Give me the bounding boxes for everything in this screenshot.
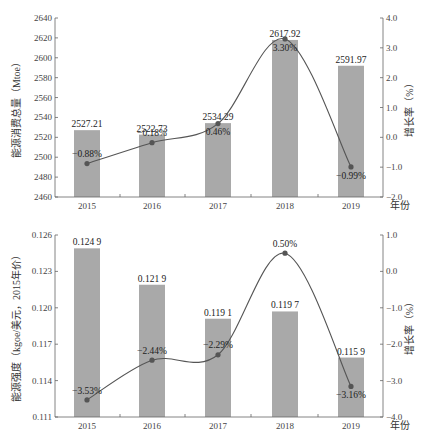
- x-tick-label: 2018: [276, 421, 295, 431]
- y2-tick-label: 1.0: [386, 230, 398, 240]
- y-tick-label: 2540: [34, 112, 53, 122]
- growth-rate-label: −0.88%: [72, 149, 102, 159]
- y-tick-label: 2480: [34, 172, 53, 182]
- energy-consumption-chart: 2527.212522.732534.292617.922591.9724602…: [10, 13, 415, 211]
- growth-rate-label: −2.29%: [203, 340, 233, 350]
- bar-value-label: 2591.97: [336, 55, 367, 65]
- bar-value-label: 2527.21: [72, 119, 103, 129]
- y2-axis-title: 增长率（%）: [403, 297, 415, 355]
- y-tick-label: 2520: [34, 132, 53, 142]
- growth-point: [348, 164, 353, 169]
- x-tick-label: 2018: [276, 201, 295, 211]
- y-tick-label: 2600: [34, 53, 53, 63]
- y-tick-label: 0.120: [32, 303, 53, 313]
- x-tick-label: 2015: [78, 421, 97, 431]
- y-tick-label: 0.117: [32, 339, 52, 349]
- y2-axis-title: 增长率（%）: [403, 78, 415, 136]
- growth-rate-label: 0.46%: [206, 127, 231, 137]
- y-tick-label: 0.126: [32, 230, 53, 240]
- bar-2018: [272, 40, 298, 197]
- x-tick-label: 2015: [78, 201, 97, 211]
- y2-tick-label: −3.0: [386, 376, 403, 386]
- y-tick-label: 2580: [34, 73, 53, 83]
- growth-rate-label: −2.44%: [137, 346, 167, 356]
- growth-rate-label: −0.99%: [336, 171, 366, 181]
- y2-tick-label: 1.0: [386, 103, 398, 113]
- growth-point: [149, 140, 154, 145]
- bar-value-label: 0.115 9: [337, 347, 365, 357]
- x-axis-title: 年份: [390, 199, 410, 211]
- energy-charts: 2527.212522.732534.292617.922591.9724602…: [0, 0, 434, 447]
- x-tick-label: 2016: [143, 421, 162, 431]
- growth-point: [84, 397, 89, 402]
- x-tick-label: 2019: [342, 421, 361, 431]
- y2-tick-label: 2.0: [386, 73, 398, 83]
- y2-tick-label: 0.0: [386, 266, 398, 276]
- bar-value-label: 0.119 7: [271, 300, 299, 310]
- bar-value-label: 0.124 9: [73, 237, 102, 247]
- growth-rate-label: −0.18%: [137, 128, 167, 138]
- bar-value-label: 0.121 9: [138, 274, 167, 284]
- growth-point: [215, 121, 220, 126]
- x-axis-title: 年份: [390, 419, 410, 431]
- y2-tick-label: −2.0: [386, 339, 403, 349]
- y2-tick-label: 3.0: [386, 43, 398, 53]
- growth-rate-label: −3.53%: [72, 386, 102, 396]
- energy-intensity-chart: 0.124 90.121 90.119 10.119 70.115 90.111…: [10, 230, 415, 431]
- y2-tick-label: −1.0: [386, 162, 403, 172]
- y-tick-label: 0.123: [32, 266, 53, 276]
- y2-tick-label: 0.0: [386, 132, 398, 142]
- growth-rate-label: −3.16%: [336, 390, 366, 400]
- y2-tick-label: 4.0: [386, 13, 398, 23]
- y-axis-title: 能源消费总量（Mtoe）: [10, 57, 22, 158]
- growth-point: [215, 352, 220, 357]
- y-tick-label: 2620: [34, 33, 53, 43]
- x-tick-label: 2017: [209, 201, 228, 211]
- growth-point: [348, 384, 353, 389]
- bar-value-label: 0.119 1: [204, 308, 232, 318]
- bar-value-label: 2534.29: [203, 112, 234, 122]
- growth-rate-label: 3.30%: [273, 43, 298, 53]
- growth-point: [149, 358, 154, 363]
- y-tick-label: 0.114: [32, 376, 52, 386]
- y-tick-label: 2640: [34, 13, 53, 23]
- growth-point: [84, 161, 89, 166]
- y2-tick-label: −1.0: [386, 303, 403, 313]
- x-tick-label: 2019: [342, 201, 361, 211]
- y-tick-label: 2460: [34, 192, 53, 202]
- growth-point: [282, 251, 287, 256]
- y-tick-label: 0.111: [32, 412, 52, 422]
- x-tick-label: 2016: [143, 201, 162, 211]
- growth-rate-label: 0.50%: [273, 239, 298, 249]
- bar-2018: [272, 311, 298, 417]
- y-axis-title: 能源强度（kgoe/美元，2015年价）: [10, 250, 22, 402]
- bar-2017: [205, 319, 231, 417]
- y-tick-label: 2500: [34, 152, 53, 162]
- growth-point: [282, 36, 287, 41]
- x-tick-label: 2017: [209, 421, 228, 431]
- y-tick-label: 2560: [34, 93, 53, 103]
